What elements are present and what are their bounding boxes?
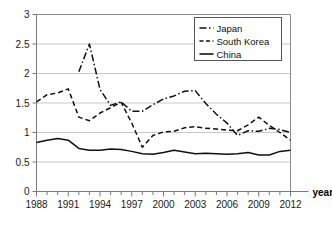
y-axis-ticks bbox=[33, 15, 37, 192]
x-axis-title: year bbox=[313, 187, 332, 198]
chart-canvas: 00.511.522.53198819911994199720002003200… bbox=[0, 0, 332, 226]
legend-label-japan: Japan bbox=[217, 23, 243, 34]
series-line-south-korea bbox=[37, 89, 291, 147]
series-line-china bbox=[37, 138, 291, 155]
x-tick-label: 1988 bbox=[25, 199, 48, 210]
y-axis-labels: 00.511.522.53 bbox=[16, 9, 30, 197]
y-tick-label: 2 bbox=[24, 68, 30, 79]
legend-label-china: China bbox=[217, 49, 243, 60]
x-axis bbox=[37, 192, 309, 197]
x-tick-label: 1994 bbox=[89, 199, 112, 210]
y-tick-label: 1.5 bbox=[16, 98, 30, 109]
x-tick-label: 2003 bbox=[184, 199, 207, 210]
x-tick-label: 2012 bbox=[279, 199, 302, 210]
x-axis-labels: 198819911994199720002003200620092012 bbox=[25, 199, 302, 210]
x-tick-label: 1991 bbox=[57, 199, 80, 210]
y-tick-label: 3 bbox=[24, 9, 30, 20]
y-tick-label: 0 bbox=[24, 186, 30, 197]
y-tick-label: 1 bbox=[24, 127, 30, 138]
line-chart: 00.511.522.53198819911994199720002003200… bbox=[0, 0, 332, 226]
y-tick-label: 0.5 bbox=[16, 157, 30, 168]
legend-label-south-korea: South Korea bbox=[217, 36, 271, 47]
legend: JapanSouth KoreaChina bbox=[195, 18, 282, 61]
x-tick-label: 2006 bbox=[216, 199, 239, 210]
x-tick-label: 2000 bbox=[152, 199, 175, 210]
x-tick-label: 2009 bbox=[248, 199, 271, 210]
y-tick-label: 2.5 bbox=[16, 39, 30, 50]
x-tick-label: 1997 bbox=[121, 199, 144, 210]
